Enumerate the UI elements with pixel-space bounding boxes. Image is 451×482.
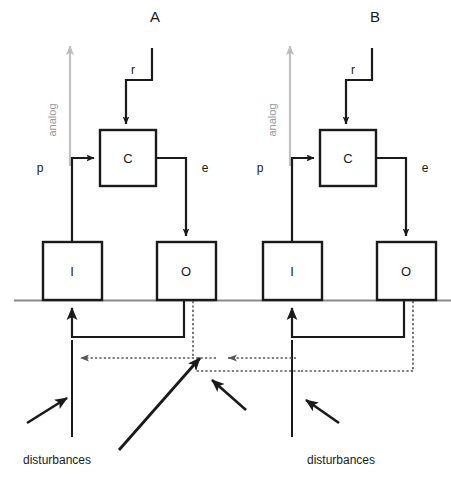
input-label-a: I <box>70 264 74 279</box>
perception-signal-path-a <box>72 158 94 243</box>
environment-feedback-path-a <box>72 301 184 337</box>
controller-label-b: C <box>343 151 352 166</box>
error-signal-path-b <box>376 158 406 236</box>
error-label-b: e <box>422 161 429 175</box>
section-b: B r p e C I O analog disturbances <box>119 8 436 467</box>
error-label-a: e <box>202 161 209 175</box>
reference-signal-path-a <box>126 48 152 124</box>
perception-signal-path-b <box>292 158 314 243</box>
disturbance-arrow-a-left <box>27 398 67 423</box>
output-label-b: O <box>401 264 411 279</box>
error-signal-path-a <box>156 158 186 236</box>
reference-label-a: r <box>131 63 135 77</box>
disturbance-arrow-center-short <box>212 380 246 410</box>
disturbances-label-b: disturbances <box>307 453 375 467</box>
analog-axis-label-a: analog <box>46 103 58 136</box>
input-label-b: I <box>290 264 294 279</box>
perception-label-a: p <box>37 161 44 175</box>
environment-feedback-path-b <box>292 301 404 337</box>
perception-label-b: p <box>257 161 264 175</box>
disturbance-arrow-center <box>119 358 200 450</box>
diagram-canvas: A r p e C I O analog disturbances <box>0 0 451 482</box>
controller-label-a: C <box>123 151 132 166</box>
reference-signal-path-b <box>346 48 372 124</box>
section-label-b: B <box>370 8 380 25</box>
section-a: A r p e C I O analog disturbances <box>23 8 216 467</box>
section-label-a: A <box>150 8 160 25</box>
control-loop-diagram: A r p e C I O analog disturbances <box>0 0 451 482</box>
output-label-a: O <box>181 264 191 279</box>
reference-label-b: r <box>351 63 355 77</box>
digital-link-dotted-b-left <box>196 360 300 371</box>
disturbances-label-a: disturbances <box>23 453 91 467</box>
analog-axis-label-b: analog <box>266 103 278 136</box>
disturbance-arrow-b-right <box>306 400 339 423</box>
